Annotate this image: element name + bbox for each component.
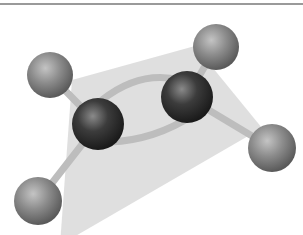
hydrogen-atom-top-right [193,24,239,70]
ethylene-molecule-figure [0,0,303,235]
carbon-atom-left [72,98,124,150]
carbon-atom-right [161,71,213,123]
hydrogen-atom-bottom-left [14,177,62,225]
hydrogen-atom-top-left [27,52,73,98]
hydrogen-atom-right [248,124,296,172]
